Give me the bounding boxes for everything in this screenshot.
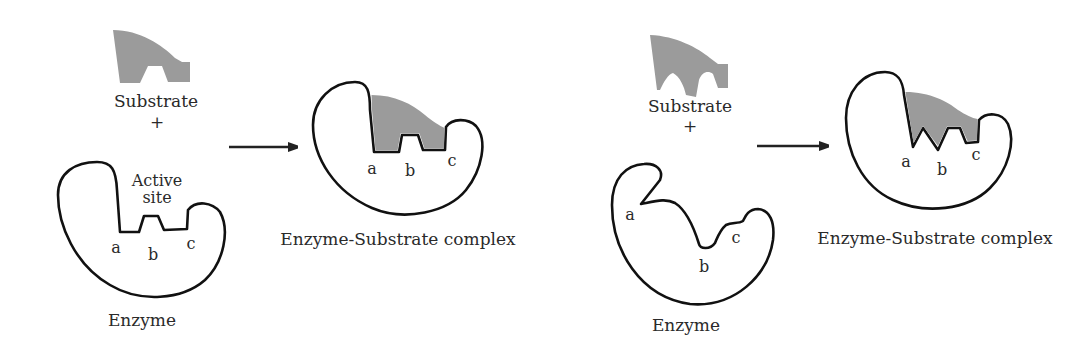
- plus-sign-right: +: [683, 116, 697, 136]
- right-panel: Substrate + a b c Enzyme a b c Enzyme-Su…: [612, 35, 1053, 335]
- complex-site-label-a-left: a: [367, 159, 377, 178]
- complex-site-label-a-right: a: [901, 152, 911, 171]
- complex-substrate-right: [906, 92, 978, 146]
- enzyme-shape-right: [612, 164, 773, 304]
- enzyme-diagram: Substrate + Active site a b c Enzyme a b…: [0, 0, 1087, 355]
- site-label-c-left: c: [187, 234, 196, 253]
- plus-sign-left: +: [150, 112, 164, 132]
- enzyme-label-left: Enzyme: [108, 310, 176, 330]
- complex-site-label-c-right: c: [972, 145, 981, 164]
- substrate-shape-left: [113, 30, 190, 83]
- complex-site-label-b-right: b: [937, 160, 947, 179]
- complex-site-label-c-left: c: [448, 151, 457, 170]
- substrate-label-left: Substrate: [114, 91, 198, 111]
- enzyme-label-right: Enzyme: [652, 315, 720, 335]
- complex-enzyme-shape-right: [846, 72, 1011, 209]
- complex-label-right: Enzyme-Substrate complex: [817, 228, 1053, 248]
- complex-site-label-b-left: b: [405, 161, 415, 180]
- complex-label-left: Enzyme-Substrate complex: [280, 229, 516, 249]
- site-label-b-left: b: [148, 245, 158, 264]
- substrate-shape-right: [650, 35, 728, 97]
- site-label-c-right: c: [732, 228, 741, 247]
- site-label-a-left: a: [111, 238, 121, 257]
- site-label-b-right: b: [699, 257, 709, 276]
- active-site-label-line2: site: [142, 188, 171, 207]
- left-panel: Substrate + Active site a b c Enzyme a b…: [58, 30, 516, 330]
- substrate-label-right: Substrate: [648, 96, 732, 116]
- site-label-a-right: a: [625, 205, 635, 224]
